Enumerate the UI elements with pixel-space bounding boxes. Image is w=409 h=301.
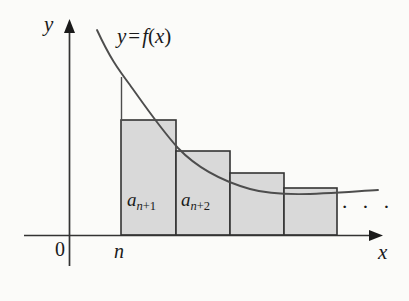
bar-label-1-sub-num: 1 xyxy=(150,199,156,213)
origin-label: 0 xyxy=(55,239,65,259)
integral-test-figure: y x 0 n y=f(x) an+1 an+2 · · · xyxy=(0,0,409,301)
bar-label-2: an+2 xyxy=(181,190,210,212)
bar-label-2-sub-num: 2 xyxy=(204,199,210,213)
bar-label-1-sub-plus: + xyxy=(143,199,150,213)
curve-label-close-paren: ) xyxy=(164,24,171,48)
curve-equation-label: y=f(x) xyxy=(117,26,171,47)
x-axis-label: x xyxy=(378,242,387,263)
curve-label-y: y xyxy=(117,24,126,48)
rectangle-group xyxy=(121,120,337,235)
bar-label-1-base: a xyxy=(127,189,137,210)
bar-label-2-base: a xyxy=(181,189,191,210)
bar-label-1: an+1 xyxy=(127,190,156,212)
y-axis-label: y xyxy=(44,14,53,35)
curve-label-arg: x xyxy=(155,24,164,48)
bar-label-1-subscript: n+1 xyxy=(137,199,157,213)
x-tick-label-n: n xyxy=(114,241,124,261)
bar-label-2-subscript: n+2 xyxy=(191,199,211,213)
curve-label-open-paren: ( xyxy=(148,24,155,48)
bar-rect-4 xyxy=(284,188,337,235)
curve-label-equals: = xyxy=(126,24,142,48)
continuation-ellipsis: · · · xyxy=(341,196,394,218)
y-axis-arrowhead xyxy=(64,19,75,33)
bar-rect-3 xyxy=(230,173,284,235)
bar-label-2-sub-plus: + xyxy=(197,199,204,213)
